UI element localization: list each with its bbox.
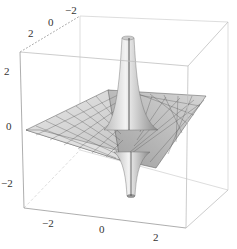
x-tick-neg2: −2	[42, 218, 54, 229]
y-tick-2: 2	[28, 28, 34, 39]
y-tick-0: 0	[48, 17, 54, 28]
z-tick-neg2: −2	[1, 178, 13, 189]
z-tick-0: 0	[6, 121, 12, 132]
y-tick-neg2: −2	[65, 5, 77, 16]
surface-plot	[0, 0, 237, 249]
x-tick-0: 0	[99, 224, 105, 235]
x-tick-2: 2	[153, 232, 159, 243]
z-tick-2: 2	[4, 66, 10, 77]
